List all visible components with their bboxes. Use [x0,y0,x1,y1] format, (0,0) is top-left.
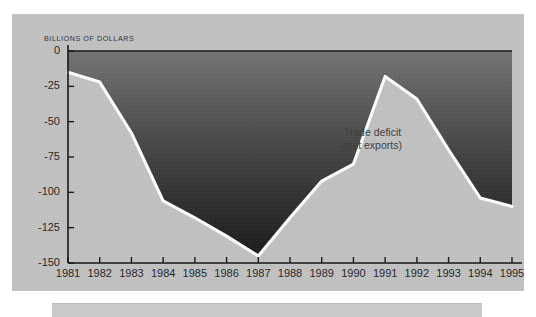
x-axis-tick-label: 1984 [151,268,175,279]
x-axis-tick-labels: 1981198219831984198519861987198819891990… [12,14,524,291]
x-axis-tick-label: 1989 [309,268,333,279]
annotation-line-1: Trade deficit [343,126,402,139]
x-axis-tick-label: 1992 [405,268,429,279]
x-axis-tick-label: 1995 [500,268,524,279]
x-axis-tick-label: 1994 [468,268,492,279]
x-axis-tick-label: 1987 [246,268,270,279]
caption-bar [52,303,482,317]
x-axis-tick-label: 1990 [341,268,365,279]
x-axis-tick-label: 1982 [87,268,111,279]
x-axis-tick-label: 1991 [373,268,397,279]
x-axis-tick-label: 1988 [278,268,302,279]
x-axis-tick-label: 1986 [214,268,238,279]
x-axis-tick-label: 1993 [436,268,460,279]
x-axis-tick-label: 1983 [119,268,143,279]
chart-panel: BILLIONS OF DOLLARS [12,14,524,291]
annotation-line-2: (net exports) [343,139,402,152]
series-annotation: Trade deficit (net exports) [343,126,402,152]
x-axis-tick-label: 1985 [183,268,207,279]
x-axis-tick-label: 1981 [56,268,80,279]
